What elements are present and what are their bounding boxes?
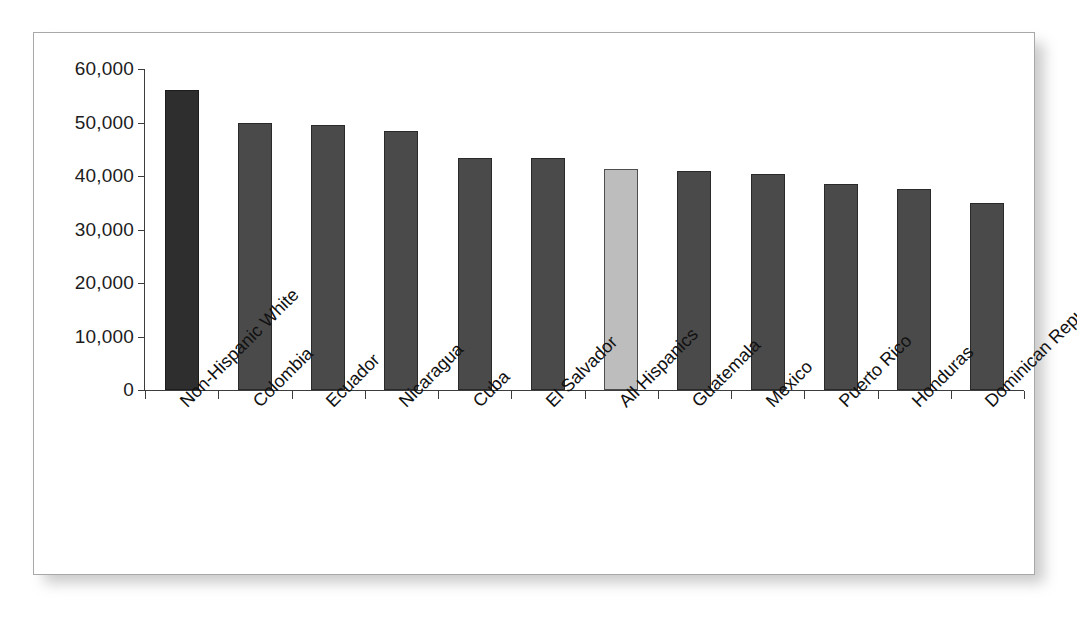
bar-nicaragua <box>384 131 418 390</box>
bar-dominican-republic <box>970 203 1004 390</box>
bar-puerto-rico <box>824 184 858 390</box>
y-axis-tick <box>138 69 145 70</box>
bar-chart-plot: 010,00020,00030,00040,00050,00060,000 No… <box>34 33 1036 576</box>
y-axis-tick <box>138 123 145 124</box>
y-axis-tick-label: 10,000 <box>38 326 134 348</box>
y-axis-tick-label: 0 <box>38 379 134 401</box>
chart-frame: 010,00020,00030,00040,00050,00060,000 No… <box>33 32 1035 575</box>
bar-honduras <box>897 189 931 390</box>
y-axis-tick-label: 60,000 <box>38 58 134 80</box>
bar-ecuador <box>311 125 345 390</box>
y-axis-tick-label: 40,000 <box>38 165 134 187</box>
x-axis-tick <box>1024 391 1025 399</box>
bar-non-hispanic-white <box>165 90 199 390</box>
y-axis-tick-label: 50,000 <box>38 112 134 134</box>
y-axis-tick-label: 30,000 <box>38 219 134 241</box>
y-axis-tick <box>138 230 145 231</box>
y-axis-tick <box>138 390 145 391</box>
x-axis-category-labels: Non-Hispanic WhiteColombiaEcuadorNicarag… <box>145 397 1024 572</box>
y-axis-tick <box>138 337 145 338</box>
y-axis-tick-label: 20,000 <box>38 272 134 294</box>
y-axis-tick <box>138 176 145 177</box>
y-axis-tick <box>138 283 145 284</box>
page-canvas: 010,00020,00030,00040,00050,00060,000 No… <box>0 0 1077 640</box>
bar-el-salvador <box>531 158 565 390</box>
